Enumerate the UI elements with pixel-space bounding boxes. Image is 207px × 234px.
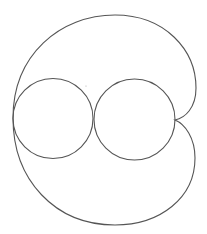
diagram-canvas xyxy=(0,0,207,234)
stray-dot xyxy=(85,85,86,86)
left-circle xyxy=(13,79,93,159)
outer-cardioid-curve xyxy=(13,15,196,225)
right-circle xyxy=(94,79,175,160)
